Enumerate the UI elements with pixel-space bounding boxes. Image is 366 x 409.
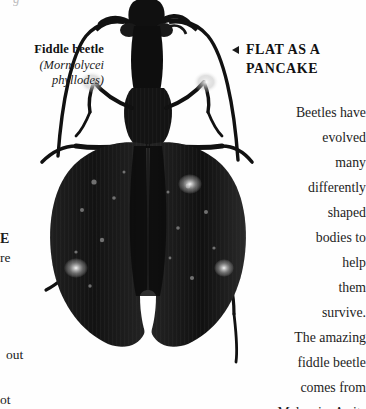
caption-scientific-name-line2: phyllodes) xyxy=(0,73,104,89)
clipped-text-fragment-1: E xyxy=(0,231,10,247)
body-line: fiddle beetle xyxy=(218,350,366,375)
beetle-neck xyxy=(131,26,163,92)
body-line: survive. xyxy=(218,300,366,325)
clipped-text-fragment-2: re xyxy=(0,250,11,266)
body-line: them xyxy=(218,275,366,300)
clipped-text-fragment-top: g xyxy=(13,0,20,7)
article-body: Beetles have evolved many differently sh… xyxy=(218,100,366,409)
article-column: FLAT AS A PANCAKE Beetles have evolved m… xyxy=(232,40,366,78)
body-line: differently xyxy=(218,175,366,200)
beetle-pronotum xyxy=(124,88,172,148)
beetle-abdomen xyxy=(130,146,167,296)
article-heading-line1: FLAT AS A xyxy=(246,40,366,59)
article-heading-line2: PANCAKE xyxy=(246,59,366,78)
body-line: comes from xyxy=(218,375,366,400)
body-line: evolved xyxy=(218,125,366,150)
body-line: shaped xyxy=(218,200,366,225)
article-heading: FLAT AS A PANCAKE xyxy=(232,40,366,78)
body-line: Malaysia. As its xyxy=(218,400,366,409)
left-triangle-icon xyxy=(232,46,239,54)
body-line: help xyxy=(218,250,366,275)
body-line: bodies to xyxy=(218,225,366,250)
body-line: Beetles have xyxy=(218,100,366,125)
specimen-caption: Fiddle beetle (Mormolycei phyllodes) xyxy=(0,42,104,89)
clipped-text-fragment-3: out xyxy=(6,347,23,363)
caption-scientific-name-line1: (Mormolycei xyxy=(0,58,104,74)
book-page: g xyxy=(0,0,366,409)
clipped-text-fragment-4: ot xyxy=(0,392,11,408)
body-line: The amazing xyxy=(218,325,366,350)
body-line: many xyxy=(218,150,366,175)
caption-common-name: Fiddle beetle xyxy=(0,42,104,58)
